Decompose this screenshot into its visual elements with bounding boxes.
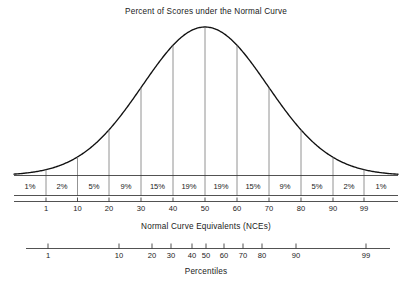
band-percent-label: 19%	[213, 182, 228, 191]
band-divider-group	[46, 27, 364, 196]
band-percent-label: 1%	[376, 182, 387, 191]
percentile-tick-label-group: 110203040506070809099	[46, 251, 370, 260]
band-percent-label: 15%	[150, 182, 165, 191]
percentile-tick-label: 20	[148, 251, 156, 260]
percentile-tick-group	[48, 244, 366, 249]
percentile-tick-label: 50	[202, 251, 210, 260]
normal-curve-figure: Percent of Scores under the Normal Curve…	[0, 0, 412, 287]
band-percent-label: 9%	[280, 182, 291, 191]
band-percent-label: 9%	[121, 182, 132, 191]
nce-tick-group	[46, 198, 364, 202]
nce-tick-label: 30	[137, 204, 145, 213]
normal-curve-path	[14, 27, 398, 174]
nce-axis-caption: Normal Curve Equivalents (NCEs)	[141, 222, 271, 231]
band-percent-label: 2%	[57, 182, 68, 191]
percentile-tick-label: 60	[220, 251, 228, 260]
percentile-tick-label: 99	[362, 251, 370, 260]
nce-tick-label: 99	[360, 204, 368, 213]
percentile-tick-label: 70	[239, 251, 247, 260]
chart-title: Percent of Scores under the Normal Curve	[125, 7, 287, 16]
band-percent-label: 5%	[89, 182, 100, 191]
band-percent-label: 2%	[344, 182, 355, 191]
percentile-tick-label: 40	[188, 251, 196, 260]
percentile-axis: 110203040506070809099 Percentiles	[26, 244, 390, 277]
nce-axis: 110203040506070809099 Normal Curve Equiv…	[14, 198, 398, 232]
nce-tick-label: 80	[297, 204, 305, 213]
percentile-tick-label: 80	[258, 251, 266, 260]
normal-curve-chart: Percent of Scores under the Normal Curve…	[0, 0, 412, 287]
percentile-axis-caption: Percentiles	[185, 267, 227, 276]
band-percent-label: 1%	[25, 182, 36, 191]
nce-tick-label: 90	[329, 204, 337, 213]
nce-tick-label-group: 110203040506070809099	[44, 204, 368, 213]
percentile-tick-label: 1	[46, 251, 50, 260]
percentile-tick-label: 10	[115, 251, 123, 260]
nce-tick-label: 1	[44, 204, 48, 213]
nce-tick-label: 20	[105, 204, 113, 213]
nce-tick-label: 40	[169, 204, 177, 213]
band-percent-label: 15%	[245, 182, 260, 191]
nce-tick-label: 60	[233, 204, 241, 213]
nce-tick-label: 10	[73, 204, 81, 213]
band-percent-label: 5%	[312, 182, 323, 191]
percentile-tick-label: 90	[292, 251, 300, 260]
percentile-tick-label: 30	[167, 251, 175, 260]
nce-tick-label: 70	[265, 204, 273, 213]
band-percent-label: 19%	[181, 182, 196, 191]
band-label-group: 1%2%5%9%15%19%19%15%9%5%2%1%	[25, 182, 387, 191]
nce-tick-label: 50	[201, 204, 209, 213]
